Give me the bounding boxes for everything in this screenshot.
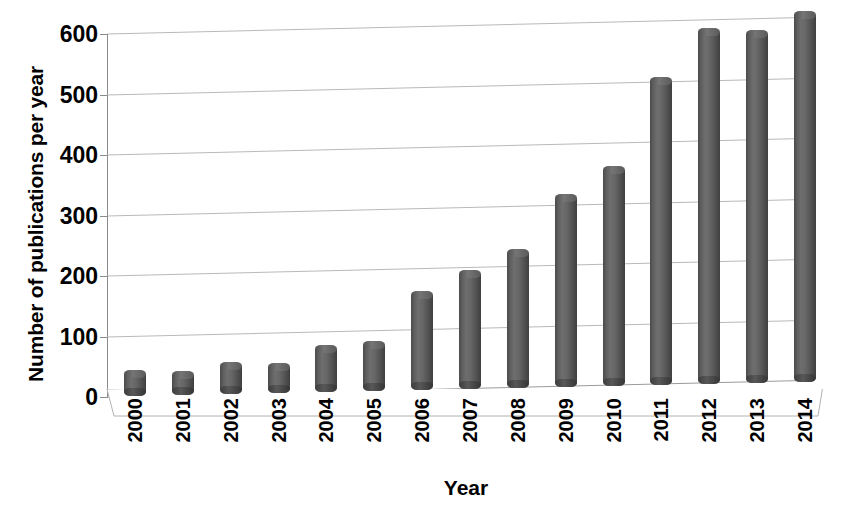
bar-top-ellipse	[172, 371, 194, 379]
x-axis-tick-labels: 2000200120022003200420052006200720082009…	[107, 398, 825, 470]
y-axis-tick-labels: 0100200300400500600	[30, 0, 98, 516]
bar-body	[603, 170, 625, 382]
bar-bottom-ellipse	[315, 384, 337, 392]
bar-2012	[698, 28, 720, 384]
y-tick-mark-600	[100, 34, 108, 35]
y-tick-label-600: 600	[30, 23, 98, 46]
x-tick-label-2002: 2002	[220, 398, 242, 470]
x-tick-label-2006: 2006	[411, 398, 433, 470]
x-tick-label-2014: 2014	[794, 398, 816, 470]
bar-bottom-ellipse	[555, 379, 577, 387]
bar-bottom-ellipse	[411, 382, 433, 390]
bar-2010	[603, 166, 625, 386]
y-tick-mark-200	[100, 276, 108, 277]
bar-bottom-ellipse	[172, 387, 194, 395]
bar-2003	[268, 363, 290, 393]
bar-body	[650, 81, 672, 380]
x-tick-label-2000: 2000	[124, 398, 146, 470]
plot-area	[107, 34, 825, 397]
bar-top-ellipse	[220, 362, 242, 370]
bar-top-ellipse	[268, 363, 290, 371]
y-tick-mark-500	[100, 95, 108, 96]
bar-body	[794, 15, 816, 378]
bar-2009	[555, 194, 577, 387]
bar-body	[555, 198, 577, 383]
x-tick-label-2013: 2013	[746, 398, 768, 470]
x-tick-label-2007: 2007	[459, 398, 481, 470]
bar-top-ellipse	[124, 370, 146, 378]
bar-2008	[507, 249, 529, 388]
bar-top-ellipse	[507, 249, 529, 257]
bar-body	[746, 34, 768, 379]
bar-2005	[363, 341, 385, 391]
bar-series	[107, 34, 825, 398]
bar-bottom-ellipse	[363, 383, 385, 391]
bar-top-ellipse	[555, 194, 577, 202]
bar-body	[459, 274, 481, 385]
bar-body	[507, 253, 529, 384]
y-tick-label-300: 300	[30, 204, 98, 227]
x-tick-label-2005: 2005	[363, 398, 385, 470]
x-tick-label-2004: 2004	[315, 398, 337, 470]
y-tick-label-200: 200	[30, 265, 98, 288]
y-tick-label-400: 400	[30, 144, 98, 167]
bar-chart-figure: Number of publications per year 01002003…	[0, 0, 844, 516]
x-tick-label-2012: 2012	[698, 398, 720, 470]
bar-top-ellipse	[746, 30, 768, 38]
bar-top-ellipse	[411, 291, 433, 299]
bar-top-ellipse	[603, 166, 625, 174]
bar-top-ellipse	[459, 270, 481, 278]
bar-bottom-ellipse	[268, 385, 290, 393]
bar-bottom-ellipse	[507, 380, 529, 388]
bar-bottom-ellipse	[794, 374, 816, 382]
bar-bottom-ellipse	[124, 388, 146, 396]
bar-top-ellipse	[698, 28, 720, 36]
bar-2000	[124, 370, 146, 396]
bar-bottom-ellipse	[650, 377, 672, 385]
bar-body	[411, 295, 433, 386]
x-tick-label-2011: 2011	[650, 398, 672, 470]
bar-body	[315, 349, 337, 388]
bar-bottom-ellipse	[459, 381, 481, 389]
bar-top-ellipse	[315, 345, 337, 353]
bar-2006	[411, 291, 433, 390]
bar-2002	[220, 362, 242, 394]
x-tick-label-2003: 2003	[268, 398, 290, 470]
bar-bottom-ellipse	[746, 375, 768, 383]
bar-2007	[459, 270, 481, 389]
x-tick-label-2001: 2001	[172, 398, 194, 470]
bar-2001	[172, 371, 194, 395]
y-tick-mark-100	[100, 337, 108, 338]
bar-bottom-ellipse	[220, 386, 242, 394]
y-tick-label-500: 500	[30, 83, 98, 106]
y-tick-mark-400	[100, 155, 108, 156]
x-axis-title: Year	[107, 476, 825, 500]
bar-top-ellipse	[650, 77, 672, 85]
x-tick-label-2008: 2008	[507, 398, 529, 470]
bar-2014	[794, 11, 816, 382]
bar-body	[363, 345, 385, 387]
bar-2011	[650, 77, 672, 384]
bar-body	[698, 32, 720, 380]
x-tick-label-2009: 2009	[555, 398, 577, 470]
bar-2004	[315, 345, 337, 392]
y-tick-label-100: 100	[30, 325, 98, 348]
bar-top-ellipse	[363, 341, 385, 349]
bar-bottom-ellipse	[698, 376, 720, 384]
bar-bottom-ellipse	[603, 378, 625, 386]
y-tick-label-0: 0	[30, 386, 98, 409]
bar-2013	[746, 30, 768, 383]
bar-top-ellipse	[794, 11, 816, 19]
x-tick-label-2010: 2010	[603, 398, 625, 470]
y-tick-mark-300	[100, 216, 108, 217]
